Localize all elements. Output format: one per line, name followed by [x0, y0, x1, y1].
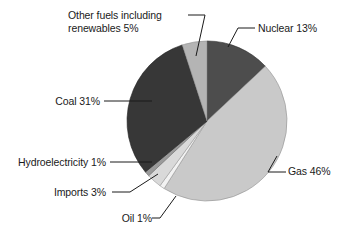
- leader-line-oil: [152, 196, 176, 218]
- pie-slices: [127, 41, 287, 201]
- slice-label-oil: Oil 1%: [108, 212, 152, 225]
- leader-line-nuclear: [228, 28, 255, 47]
- pie-chart-canvas: [0, 0, 340, 247]
- pie-chart-figure: Other fuels including renewables 5% Nucl…: [0, 0, 340, 247]
- slice-label-hydroelectricity: Hydroelectricity 1%: [2, 156, 106, 169]
- slice-label-nuclear: Nuclear 13%: [258, 22, 317, 35]
- slice-label-other-fuels: Other fuels including renewables 5%: [68, 9, 186, 34]
- slice-label-gas: Gas 46%: [288, 165, 331, 178]
- slice-label-imports: Imports 3%: [18, 186, 106, 199]
- slice-label-coal: Coal 31%: [12, 95, 100, 108]
